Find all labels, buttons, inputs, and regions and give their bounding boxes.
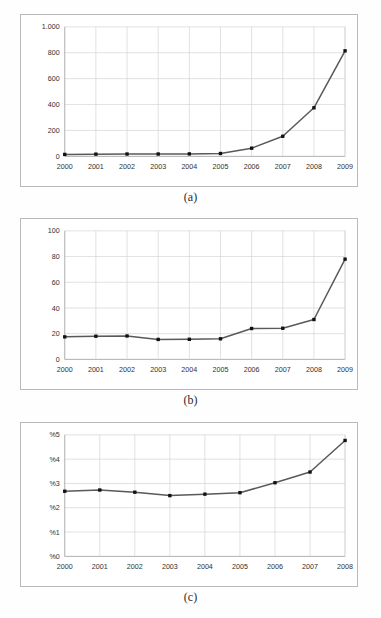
x-axis-tick-label: 2006 xyxy=(244,163,260,171)
y-axis-tick-label: 800 xyxy=(48,49,60,57)
y-axis-tick-label: 20 xyxy=(52,330,60,338)
x-axis-tick-label: 2007 xyxy=(275,366,291,374)
line-chart-c: %0%1%2%3%4%52000200120022003200420052006… xyxy=(21,423,357,586)
series-line xyxy=(65,259,345,339)
data-point-marker xyxy=(188,338,191,341)
data-point-marker xyxy=(63,490,66,493)
y-axis-tick-label: 0 xyxy=(56,153,60,161)
y-axis-tick-label: %3 xyxy=(49,480,59,488)
data-point-marker xyxy=(219,152,222,155)
data-point-marker xyxy=(94,152,97,155)
y-axis-tick-label: %2 xyxy=(49,504,59,512)
data-point-marker xyxy=(343,439,346,442)
y-axis-tick-label: 40 xyxy=(52,305,60,313)
line-chart-a: 02004006008001.0002000200120022003200420… xyxy=(21,15,357,186)
x-axis-tick-label: 2005 xyxy=(213,366,229,374)
data-point-marker xyxy=(156,338,159,341)
chart-frame-a: 02004006008001.0002000200120022003200420… xyxy=(20,14,358,187)
data-point-marker xyxy=(343,257,346,260)
data-point-marker xyxy=(168,494,171,497)
data-point-marker xyxy=(250,327,253,330)
data-point-marker xyxy=(125,152,128,155)
x-axis-tick-label: 2004 xyxy=(197,563,213,571)
x-axis-tick-label: 2000 xyxy=(57,163,73,171)
y-axis-tick-label: 600 xyxy=(48,75,60,83)
y-axis-tick-label: 0 xyxy=(56,356,60,364)
data-point-marker xyxy=(281,135,284,138)
data-point-marker xyxy=(250,147,253,150)
data-point-marker xyxy=(343,49,346,52)
y-axis-tick-label: %0 xyxy=(49,553,59,561)
x-axis-tick-label: 2001 xyxy=(88,366,104,374)
x-axis-tick-label: 2006 xyxy=(244,366,260,374)
x-axis-tick-label: 2000 xyxy=(57,366,73,374)
x-axis-tick-label: 2008 xyxy=(306,163,322,171)
x-axis-tick-label: 2001 xyxy=(88,163,104,171)
data-point-marker xyxy=(308,470,311,473)
data-point-marker xyxy=(281,327,284,330)
y-axis-tick-label: 400 xyxy=(48,101,60,109)
figure-page: 02004006008001.0002000200120022003200420… xyxy=(0,0,381,618)
x-axis-tick-label: 2009 xyxy=(337,163,353,171)
chart-frame-b: 0204060801002000200120022003200420052006… xyxy=(20,218,358,390)
data-point-marker xyxy=(188,152,191,155)
y-axis-tick-label: %5 xyxy=(49,431,59,439)
x-axis-tick-label: 2002 xyxy=(127,563,143,571)
y-axis-tick-label: 100 xyxy=(48,227,60,235)
line-chart-b: 0204060801002000200120022003200420052006… xyxy=(21,219,357,389)
y-axis-tick-label: 60 xyxy=(52,279,60,287)
x-axis-tick-label: 2006 xyxy=(267,563,283,571)
data-point-marker xyxy=(133,491,136,494)
figure-caption-c: (c) xyxy=(0,590,381,605)
x-axis-tick-label: 2005 xyxy=(213,163,229,171)
data-point-marker xyxy=(312,318,315,321)
x-axis-tick-label: 2008 xyxy=(337,563,353,571)
x-axis-tick-label: 2007 xyxy=(302,563,318,571)
data-point-marker xyxy=(94,335,97,338)
x-axis-tick-label: 2009 xyxy=(337,366,353,374)
series-line xyxy=(65,51,345,155)
x-axis-tick-label: 2003 xyxy=(150,366,166,374)
y-axis-tick-label: %4 xyxy=(49,456,59,464)
figure-caption-a: (a) xyxy=(0,190,381,205)
x-axis-tick-label: 2004 xyxy=(181,163,197,171)
data-point-marker xyxy=(238,491,241,494)
figure-c: %0%1%2%3%4%52000200120022003200420052006… xyxy=(0,422,381,616)
data-point-marker xyxy=(98,488,101,491)
y-axis-tick-label: %1 xyxy=(49,529,59,537)
y-axis-tick-label: 1.000 xyxy=(42,23,60,31)
data-point-marker xyxy=(219,337,222,340)
data-point-marker xyxy=(125,334,128,337)
x-axis-tick-label: 2005 xyxy=(232,563,248,571)
chart-frame-c: %0%1%2%3%4%52000200120022003200420052006… xyxy=(20,422,358,587)
x-axis-tick-label: 2002 xyxy=(119,163,135,171)
y-axis-tick-label: 200 xyxy=(48,127,60,135)
y-axis-tick-label: 80 xyxy=(52,253,60,261)
x-axis-tick-label: 2004 xyxy=(181,366,197,374)
data-point-marker xyxy=(63,153,66,156)
data-point-marker xyxy=(203,492,206,495)
data-point-marker xyxy=(273,481,276,484)
data-point-marker xyxy=(156,152,159,155)
x-axis-tick-label: 2002 xyxy=(119,366,135,374)
figure-a: 02004006008001.0002000200120022003200420… xyxy=(0,14,381,210)
x-axis-tick-label: 2001 xyxy=(92,563,108,571)
x-axis-tick-label: 2003 xyxy=(150,163,166,171)
x-axis-tick-label: 2003 xyxy=(162,563,178,571)
figure-b: 0204060801002000200120022003200420052006… xyxy=(0,218,381,414)
x-axis-tick-label: 2000 xyxy=(57,563,73,571)
data-point-marker xyxy=(63,335,66,338)
x-axis-tick-label: 2008 xyxy=(306,366,322,374)
x-axis-tick-label: 2007 xyxy=(275,163,291,171)
figure-caption-b: (b) xyxy=(0,393,381,408)
data-point-marker xyxy=(312,106,315,109)
